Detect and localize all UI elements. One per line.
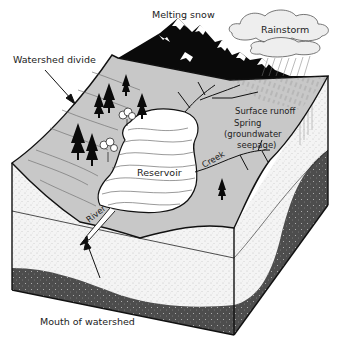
label-rainstorm: Rainstorm: [261, 24, 309, 35]
watershed-diagram: Melting snow Rainstorm Watershed divide …: [0, 0, 362, 344]
label-reservoir: Reservoir: [137, 167, 182, 178]
watershed-divide-arrow: [45, 70, 72, 100]
label-mouth-of-watershed: Mouth of watershed: [40, 316, 135, 327]
label-spring-line2: (groundwater: [224, 129, 282, 139]
label-spring-line1: Spring: [234, 118, 261, 128]
label-melting-snow: Melting snow: [152, 9, 215, 20]
label-surface-runoff: Surface runoff: [235, 106, 297, 116]
label-watershed-divide: Watershed divide: [13, 54, 96, 65]
label-spring-line3: seepage): [237, 140, 276, 150]
